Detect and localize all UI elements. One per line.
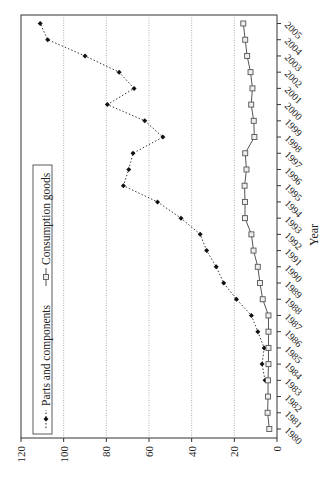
parts-marker-icon xyxy=(142,118,147,123)
legend: Parts and components Consumption goods xyxy=(33,165,53,434)
year-tick-label: 1992 xyxy=(283,230,305,252)
parts-marker-icon xyxy=(132,86,137,91)
parts-marker-icon xyxy=(117,70,122,75)
parts-marker-icon xyxy=(45,37,50,42)
parts-marker-icon xyxy=(221,281,226,286)
year-tick-label: 1991 xyxy=(283,246,305,268)
year-tick-label: 1985 xyxy=(283,344,305,366)
year-tick-label: 1981 xyxy=(283,408,305,430)
parts-marker-icon xyxy=(126,167,131,172)
year-tick-label: 1982 xyxy=(283,392,305,414)
parts-marker-icon xyxy=(155,199,160,204)
year-tick-label: 2001 xyxy=(283,84,305,106)
consumption-marker-icon xyxy=(243,151,248,156)
legend-consumption-label: Consumption goods xyxy=(40,172,53,265)
consumption-marker-icon xyxy=(243,37,248,42)
year-tick-label: 1990 xyxy=(283,262,305,284)
consumption-marker-icon xyxy=(266,329,271,334)
consumption-marker-icon xyxy=(266,345,271,350)
parts-marker-icon xyxy=(105,102,110,107)
parts-marker-icon xyxy=(83,53,88,58)
year-tick-label: 1998 xyxy=(283,133,305,155)
value-tick-label: 120 xyxy=(15,446,27,463)
consumption-marker-icon xyxy=(249,232,254,237)
parts-marker-icon xyxy=(179,216,184,221)
consumption-marker-icon xyxy=(255,264,260,269)
x-axis-label: Year xyxy=(307,224,321,246)
year-tick-label: 2002 xyxy=(283,68,305,90)
consumption-marker-icon xyxy=(266,378,271,383)
consumption-marker-icon xyxy=(252,135,257,140)
year-tick-label: 2004 xyxy=(283,35,305,57)
consumption-marker-icon xyxy=(245,53,250,58)
parts-marker-icon xyxy=(131,151,136,156)
consumption-marker-icon xyxy=(248,70,253,75)
parts-marker-icon xyxy=(214,264,219,269)
year-tick-label: 1984 xyxy=(283,360,305,382)
consumption-marker-icon xyxy=(266,313,271,318)
consumption-marker-icon xyxy=(243,216,248,221)
consumption-marker-icon xyxy=(266,394,271,399)
value-tick-label: 60 xyxy=(143,446,155,458)
year-tick-label: 1988 xyxy=(283,295,305,317)
year-tick-label: 1999 xyxy=(283,116,305,138)
chart-container: 020406080100120 198019811982198319841985… xyxy=(0,0,326,492)
year-tick-label: 1986 xyxy=(283,327,305,349)
parts-marker-icon xyxy=(198,232,203,237)
series-group xyxy=(38,21,272,432)
year-tick-label: 1993 xyxy=(283,214,305,236)
value-tick-label: 100 xyxy=(58,446,70,463)
gridlines xyxy=(64,15,235,438)
legend-consumption-marker-icon xyxy=(44,275,49,280)
year-tick-label: 1997 xyxy=(283,149,305,171)
value-tick-label: 80 xyxy=(100,446,112,458)
consumption-marker-icon xyxy=(265,410,270,415)
line-chart: 020406080100120 198019811982198319841985… xyxy=(0,0,326,492)
year-tick-label: 2003 xyxy=(283,52,305,74)
consumption-marker-icon xyxy=(251,248,256,253)
year-tick-label: 1995 xyxy=(283,181,305,203)
year-tick-label: 1989 xyxy=(283,279,305,301)
year-tick-label: 1983 xyxy=(283,376,305,398)
year-tick-label: 2000 xyxy=(283,100,305,122)
consumption-marker-icon xyxy=(241,21,246,26)
consumption-marker-icon xyxy=(249,102,254,107)
consumption-marker-icon xyxy=(251,118,256,123)
parts-marker-icon xyxy=(121,183,126,188)
consumption-marker-icon xyxy=(260,297,265,302)
parts-line xyxy=(40,24,265,381)
consumption-marker-icon xyxy=(257,281,262,286)
consumption-marker-icon xyxy=(242,183,247,188)
legend-parts-label: Parts and components xyxy=(40,305,53,406)
year-tick-label: 1980 xyxy=(283,425,305,447)
year-tick-label: 1994 xyxy=(283,198,305,220)
parts-marker-icon xyxy=(260,362,265,367)
year-axis-ticks: 1980198119821983198419851986198719881989… xyxy=(277,19,305,446)
value-axis-ticks: 020406080100120 xyxy=(15,438,283,463)
value-tick-label: 20 xyxy=(228,446,240,458)
consumption-marker-icon xyxy=(267,427,272,432)
year-tick-label: 1996 xyxy=(283,165,305,187)
year-tick-label: 1987 xyxy=(283,311,305,333)
consumption-marker-icon xyxy=(244,167,249,172)
value-tick-label: 0 xyxy=(271,446,283,452)
parts-marker-icon xyxy=(204,248,209,253)
consumption-marker-icon xyxy=(243,199,248,204)
consumption-line xyxy=(243,24,269,430)
parts-marker-icon xyxy=(38,21,43,26)
value-tick-label: 40 xyxy=(186,446,198,458)
consumption-marker-icon xyxy=(266,362,271,367)
parts-marker-icon xyxy=(255,329,260,334)
year-tick-label: 2005 xyxy=(283,19,305,41)
consumption-marker-icon xyxy=(250,86,255,91)
